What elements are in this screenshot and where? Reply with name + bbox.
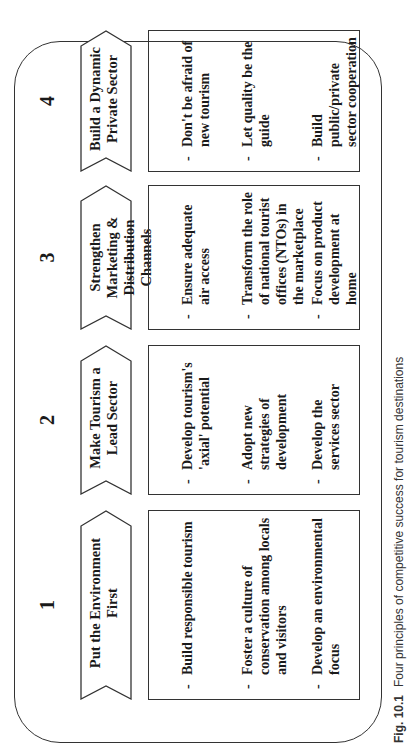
action-item: -Foster a culture of conservation among …	[239, 517, 290, 689]
principle-title: Build a Dynamic Private Sector	[87, 44, 121, 154]
action-item: -Build responsible tourism	[179, 517, 196, 689]
principle-chevron-banner: Make Tourism a Lead Sector	[80, 345, 132, 495]
action-item: -Develop tourism's 'axial' potential	[179, 352, 213, 484]
principle-number: 4	[36, 30, 59, 172]
principle-number: 1	[36, 510, 59, 700]
action-item: -Build public/private sector cooperation	[309, 37, 360, 161]
action-item: -Don't be afraid of new tourism	[179, 37, 213, 161]
action-item: -Transform the role of national tourist …	[239, 192, 307, 319]
principle-actions-box: -Develop tourism's 'axial' potential -Ad…	[148, 345, 360, 495]
principle-actions-box: -Ensure adequate air access -Transform t…	[148, 185, 360, 330]
action-item: -Let quality be the guide	[239, 37, 273, 161]
figure-caption: Fig. 10.1Four principles of competitive …	[392, 357, 406, 743]
principle-actions-box: -Don't be afraid of new tourism -Let qua…	[148, 30, 360, 172]
principle-title: Strengthen Marketing & Distribution Chan…	[87, 195, 155, 320]
principle-title: Put the Environment First	[87, 524, 121, 682]
figure-label: Fig. 10.1	[392, 695, 406, 743]
action-item: -Develop the services sector	[309, 352, 343, 484]
action-item: -Ensure adequate air access	[179, 192, 213, 319]
figure-caption-text: Four principles of competitive success f…	[392, 357, 406, 687]
principle-chevron-banner: Put the Environment First	[80, 510, 132, 700]
rotated-figure: 1 Put the Environment First -Build respo…	[0, 0, 416, 755]
action-item: -Adopt new strategies of development	[239, 352, 290, 484]
principle-chevron-banner: Strengthen Marketing & Distribution Chan…	[80, 185, 132, 330]
principle-actions-box: -Build responsible tourism -Foster a cul…	[148, 510, 360, 700]
principle-number: 2	[36, 345, 59, 495]
principle-chevron-banner: Build a Dynamic Private Sector	[80, 30, 132, 172]
principle-title: Make Tourism a Lead Sector	[87, 359, 121, 477]
action-item: -Develop an environmental focus	[309, 517, 343, 689]
principle-number: 3	[36, 185, 59, 330]
action-item: -Focus on product development at home	[309, 192, 360, 319]
